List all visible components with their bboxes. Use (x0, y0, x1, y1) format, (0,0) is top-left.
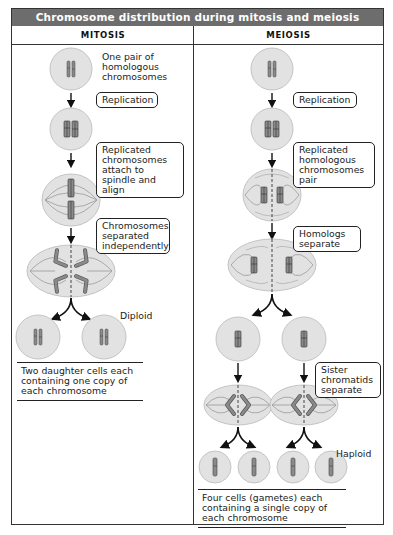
meiosis-result-note: Four cells (gametes) each containing a s… (198, 489, 346, 528)
mitosis-header: MITOSIS (12, 26, 194, 45)
diagram-title: Chromosome distribution during mitosis a… (12, 9, 383, 26)
meiosis-haploid-label: Haploid (336, 449, 371, 459)
mitosis-intro-label: One pair of homologous chromosomes (102, 52, 182, 82)
meiosis-header: MEIOSIS (194, 26, 383, 45)
mitosis-step-replication: Replication (96, 92, 158, 108)
mitosis-step-attach-align: Replicated chromosomes attach to spindle… (96, 142, 184, 198)
meiosis-step-homologs-pair: Replicated homologous chromosomes pair (293, 142, 375, 188)
mitosis-step-separated: Chromosomes separated independently (96, 218, 170, 254)
meiosis-step-homologs-separate: Homologs separate (293, 226, 361, 252)
meiosis-step-replication: Replication (293, 92, 357, 108)
mitosis-result-note: Two daughter cells each containing one c… (17, 362, 143, 401)
mitosis-diploid-label: Diploid (120, 311, 152, 321)
column-divider (193, 26, 194, 524)
meiosis-step-sister-chromatids: Sister chromatids separate (315, 362, 381, 398)
diagram-frame: Chromosome distribution during mitosis a… (11, 8, 384, 525)
